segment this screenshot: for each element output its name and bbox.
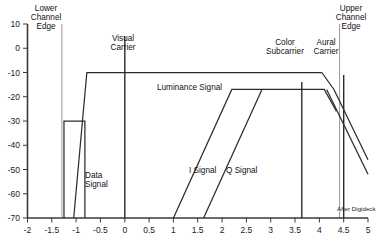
lower-channel-edge-label: Channel [31, 13, 62, 22]
aural-carrier-label: Aural [316, 38, 335, 47]
y-tick-label: 0 [15, 43, 20, 53]
i-signal-label: I Signal [189, 166, 216, 175]
after-digideck-label: After Digideck [337, 205, 376, 212]
y-tick-label: -30 [8, 116, 21, 126]
x-tick-label: 0.5 [143, 225, 155, 235]
y-tick-label: -20 [8, 92, 21, 102]
y-tick-label: -40 [8, 140, 21, 150]
data-signal-label: Data [85, 171, 103, 180]
color-subcarrier-label: Subcarrier [266, 47, 304, 56]
color-subcarrier-label: Color [275, 38, 295, 47]
x-tick-label: 0 [122, 225, 127, 235]
aural-carrier-label: Carrier [313, 47, 338, 56]
data-signal-label: Signal [85, 180, 108, 189]
x-axis-tick-labels: -2 -1.5 -1 -0.5 0 0.5 1 1.5 2 2.5 3 3.5 … [24, 225, 371, 235]
upper-channel-edge-label: Channel [336, 13, 367, 22]
visual-carrier-label: Visual [112, 34, 134, 43]
y-tick-label: -70 [8, 213, 21, 223]
upper-channel-edge-label: Edge [341, 22, 361, 31]
x-tick-label: 2.5 [240, 225, 252, 235]
x-tick-label: 1 [171, 225, 176, 235]
x-tick-label: 4.5 [338, 225, 350, 235]
x-tick-label: -0.5 [93, 225, 108, 235]
y-tick-label: -10 [8, 68, 21, 78]
x-tick-label: 4 [317, 225, 322, 235]
x-tick-label: 3 [268, 225, 273, 235]
x-tick-label: -1 [72, 225, 80, 235]
x-tick-label: 5 [366, 225, 371, 235]
spectrum-chart: 10 0 -10 -20 -30 -40 -50 -60 -70 -2 -1.5… [0, 0, 378, 241]
lower-channel-edge-label: Lower [35, 4, 58, 13]
chart-svg: 10 0 -10 -20 -30 -40 -50 -60 -70 -2 -1.5… [0, 0, 378, 241]
x-tick-label: -2 [24, 225, 32, 235]
x-tick-label: 1.5 [192, 225, 204, 235]
x-tick-label: 2 [220, 225, 225, 235]
luminance-signal-label: Luminance Signal [157, 83, 222, 92]
x-tick-label: -1.5 [44, 225, 59, 235]
q-signal-label: Q Signal [226, 166, 258, 175]
y-tick-label: -50 [8, 165, 21, 175]
y-tick-label: -60 [8, 189, 21, 199]
y-tick-label: 10 [11, 19, 21, 29]
lower-channel-edge-label: Edge [36, 22, 56, 31]
visual-carrier-label: Carrier [110, 43, 135, 52]
upper-channel-edge-label: Upper [340, 4, 363, 13]
x-tick-label: 3.5 [289, 225, 301, 235]
chart-background [0, 0, 378, 241]
